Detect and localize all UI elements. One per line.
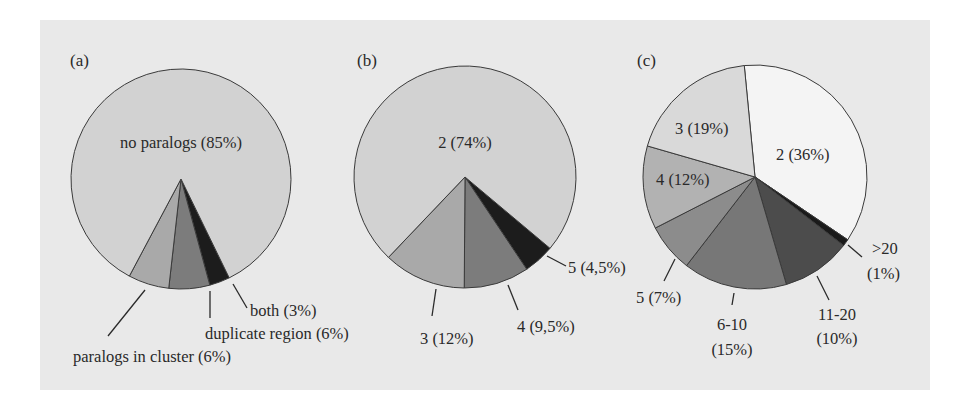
slice-label-both: both (3%): [250, 301, 316, 320]
pie-chart-a: [71, 69, 291, 289]
pie-chart-figure: (a) no paralogs (85%) both (3%) duplicat…: [0, 0, 970, 407]
slice-label-c-6-10-line2: (15%): [711, 340, 752, 359]
slice-label-c-11-20-line1: 11-20: [818, 305, 856, 324]
slice-label-b-3: 3 (12%): [420, 329, 474, 348]
slice-label-paralogs-in-cluster: paralogs in cluster (6%): [73, 347, 231, 366]
slice-label-duplicate-region: duplicate region (6%): [205, 324, 349, 343]
pie-chart-b: [354, 66, 576, 288]
slice-label-c-2: 2 (36%): [776, 145, 830, 164]
slice-label-c-6-10-line1: 6-10: [717, 315, 747, 334]
slice-label-c-3: 3 (19%): [675, 119, 729, 138]
slice-label-b-4: 4 (9,5%): [517, 317, 575, 336]
panel-label-a: (a): [70, 51, 89, 70]
slice-label-c-gt20-line1: >20: [872, 239, 898, 258]
slice-label-c-4: 4 (12%): [656, 170, 710, 189]
slice-label-no-paralogs: no paralogs (85%): [120, 133, 242, 152]
panel-label-c: (c): [637, 51, 656, 70]
panel-label-b: (b): [357, 51, 377, 70]
slice-label-c-11-20-line2: (10%): [816, 329, 857, 348]
slice-label-c-gt20-line2: (1%): [867, 264, 900, 283]
slice-label-c-5: 5 (7%): [636, 288, 681, 307]
slice-label-b-2: 2 (74%): [438, 133, 492, 152]
slice-label-b-5: 5 (4,5%): [568, 258, 626, 277]
